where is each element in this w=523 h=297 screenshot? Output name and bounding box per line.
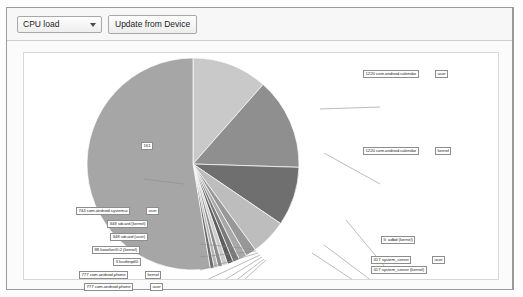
callout-777-kernel: 777 com.android.phone [79, 271, 128, 279]
leader-line [324, 153, 380, 184]
metric-dropdown-value: CPU load [23, 19, 59, 29]
callout-1220-kernel-mode: kernel [435, 147, 451, 155]
callout-744-systemui: 744 com.android.systemui [76, 207, 130, 215]
callout-777-kernel-mode: kernel [145, 271, 161, 279]
pie-slice[interactable] [87, 58, 210, 270]
callout-744-systemui-mode: user [146, 207, 159, 215]
application-root: CPU load Update from Device 1220 com.and… [0, 0, 523, 297]
callout-3-ksoftirqd: 3 ksoftirqd/0 [113, 258, 141, 266]
toolbar: CPU load Update from Device [7, 8, 512, 41]
update-from-device-button[interactable]: Update from Device [108, 15, 197, 34]
callout-88-kworker: 88 kworker/0:2 (kernel) [92, 246, 140, 254]
callout-777-user-mode: user [150, 283, 163, 291]
callout-348-user: 348 sdcard (user) [110, 233, 148, 241]
callout-417-user-mode: user [432, 256, 445, 264]
metric-dropdown[interactable]: CPU load [17, 16, 102, 33]
callout-5-adbd: 5: adbd (kernel) [381, 236, 415, 244]
callout-1220-user: 1220 com.android.calendar [363, 70, 419, 78]
leader-line [320, 107, 380, 109]
callout-417-kernel: 417 system_server (kernel) [371, 266, 427, 274]
main-window: CPU load Update from Device 1220 com.and… [6, 7, 514, 290]
callout-161: 161 [141, 142, 153, 150]
callout-1220-user-mode: user [435, 70, 448, 78]
callout-417-user: 417 system_server [371, 256, 411, 264]
chevron-down-icon [90, 23, 96, 27]
callout-777-user: 777 com.android.phone [84, 283, 133, 291]
callout-348-kernel: 348 sdcard (kernel) [107, 220, 148, 228]
callout-1220-kernel: 1220 com.android.calendar [363, 147, 419, 155]
